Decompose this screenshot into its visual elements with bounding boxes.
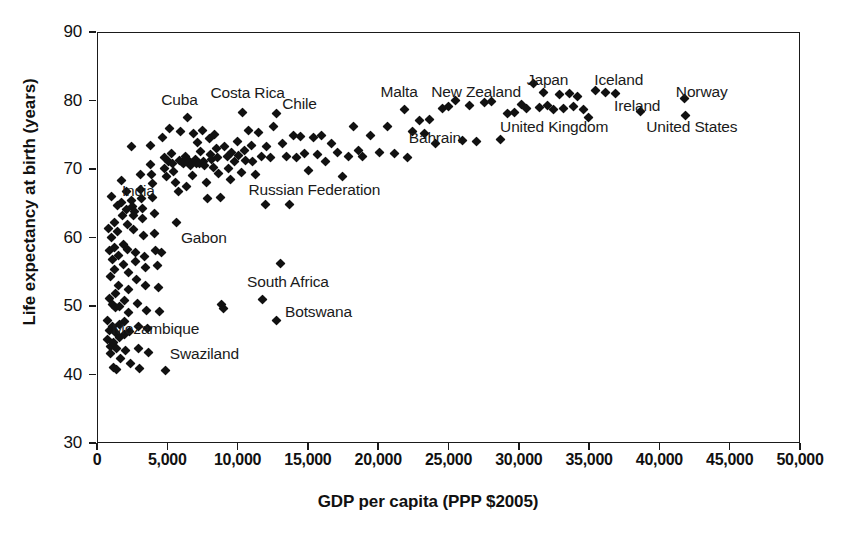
scatter-point (217, 300, 227, 310)
scatter-point (564, 88, 574, 98)
scatter-point (194, 158, 204, 168)
scatter-point (161, 365, 171, 375)
x-tick-mark (167, 443, 169, 450)
scatter-point (187, 171, 197, 181)
scatter-point (132, 299, 142, 309)
scatter-point (258, 295, 268, 305)
scatter-point (160, 164, 170, 174)
x-axis-label: GDP per capita (PPP $2005) (0, 492, 856, 512)
x-tick-label: 30,000 (495, 451, 542, 469)
scatter-point (203, 194, 213, 204)
scatter-point (129, 225, 139, 235)
scatter-point (112, 364, 122, 374)
scatter-point (400, 104, 410, 114)
x-tick-label: 35,000 (566, 451, 613, 469)
scatter-point (246, 140, 256, 150)
scatter-point (272, 315, 282, 325)
scatter-point (201, 177, 211, 187)
scatter-point (105, 294, 115, 304)
scatter-point (321, 156, 331, 166)
scatter-point (108, 338, 118, 348)
scatter-point (300, 149, 310, 159)
x-tick-label: 15,000 (284, 451, 331, 469)
scatter-point (172, 217, 182, 227)
x-tick-mark (96, 443, 98, 450)
x-tick-mark (659, 443, 661, 450)
point-annotation: Cuba (161, 92, 197, 108)
scatter-point (236, 168, 246, 178)
scatter-point (210, 129, 220, 139)
x-tick-mark (377, 443, 379, 450)
point-annotation: Japan (527, 72, 568, 88)
scatter-point (107, 299, 117, 309)
scatter-point (175, 155, 185, 165)
scatter-point (543, 101, 553, 111)
x-tick-mark (729, 443, 731, 450)
point-annotation: South Africa (247, 274, 329, 290)
scatter-point (338, 171, 348, 181)
scatter-point (601, 88, 611, 98)
scatter-point (200, 161, 210, 171)
scatter-point (220, 142, 230, 152)
scatter-point (106, 349, 116, 359)
scatter-point (425, 114, 435, 124)
point-annotation: Norway (676, 84, 728, 100)
scatter-point (142, 305, 152, 315)
point-annotation: Costa Rica (210, 85, 284, 101)
scatter-point (137, 203, 147, 213)
point-annotation: United States (646, 119, 737, 135)
scatter-point (134, 343, 144, 353)
scatter-point (374, 148, 384, 158)
scatter-point (317, 131, 327, 141)
scatter-point (225, 175, 235, 185)
scatter-point (114, 301, 124, 311)
scatter-point (207, 155, 217, 165)
scatter-point (135, 364, 145, 374)
scatter-point (214, 168, 224, 178)
scatter-point (104, 245, 114, 255)
scatter-point (105, 342, 115, 352)
scatter-point (383, 122, 393, 132)
scatter-point (266, 153, 276, 163)
scatter-point (495, 134, 505, 144)
scatter-point (177, 158, 187, 168)
scatter-point (191, 159, 201, 169)
scatter-point (284, 200, 294, 210)
scatter-point (158, 132, 168, 142)
scatter-point (291, 153, 301, 163)
scatter-point (260, 200, 270, 210)
scatter-point (213, 153, 223, 163)
scatter-point (106, 192, 116, 202)
scatter-point (162, 172, 172, 182)
scatter-point (176, 127, 186, 137)
scatter-point (206, 150, 216, 160)
scatter-point (113, 227, 123, 237)
scatter-point (549, 104, 559, 114)
scatter-point (111, 303, 121, 313)
scatter-point (169, 166, 179, 176)
x-tick-label: 40,000 (636, 451, 683, 469)
x-tick-mark (448, 443, 450, 450)
scatter-point (234, 151, 244, 161)
point-annotation: Swaziland (170, 346, 239, 362)
scatter-point (516, 99, 526, 109)
x-tick-label: 20,000 (355, 451, 402, 469)
scatter-point (509, 108, 519, 118)
scatter-point (150, 228, 160, 238)
scatter-point (366, 130, 376, 140)
scatter-point (281, 151, 291, 161)
scatter-point (132, 275, 142, 285)
scatter-point (357, 152, 367, 162)
point-annotation: Ireland (614, 98, 660, 114)
y-tick-label: 80 (48, 91, 82, 111)
scatter-point (114, 280, 124, 290)
scatter-point (139, 252, 149, 262)
scatter-point (104, 224, 114, 234)
x-tick-label: 45,000 (706, 451, 753, 469)
point-annotation: United Kingdom (500, 119, 608, 135)
scatter-point (155, 306, 165, 316)
x-tick-mark (799, 443, 801, 450)
scatter-point (149, 209, 159, 219)
scatter-point (568, 102, 578, 112)
scatter-point (471, 137, 481, 147)
